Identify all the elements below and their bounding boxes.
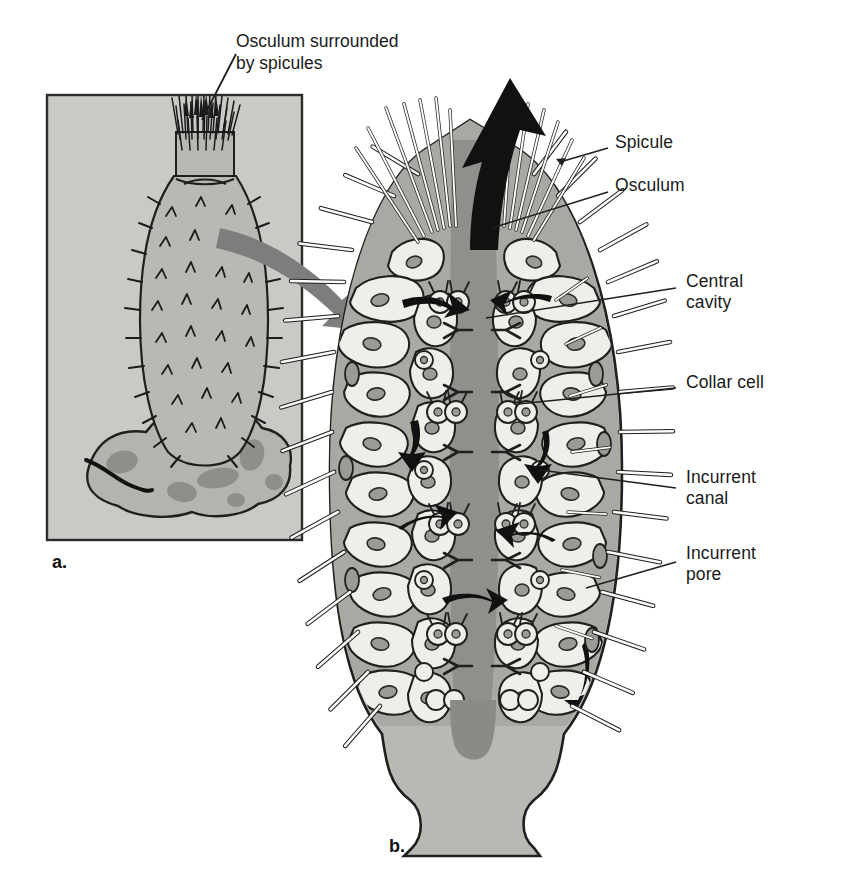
label-incurrent-canal: Incurrent canal [686, 467, 756, 509]
label-collar-cell: Collar cell [686, 372, 764, 393]
panel-a [47, 93, 302, 540]
panel-b-letter: b. [389, 836, 405, 857]
sponge-diagram [0, 0, 847, 885]
label-osculum: Osculum [615, 175, 685, 196]
label-central-cavity: Central cavity [686, 271, 743, 313]
label-spicule: Spicule [615, 132, 673, 153]
panel-a-letter: a. [52, 552, 67, 573]
callout-osculum-spicules: Osculum surrounded by spicules [236, 30, 398, 74]
label-incurrent-pore: Incurrent pore [686, 543, 756, 585]
